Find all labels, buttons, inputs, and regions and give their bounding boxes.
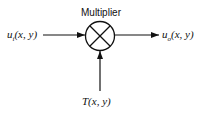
input-signal-label: ui(x, y) — [7, 29, 37, 43]
multiplier-block — [86, 22, 115, 51]
transmittance-label: T(x, y) — [82, 96, 111, 107]
output-signal-label: uo(x, y) — [162, 29, 194, 43]
multiplier-label: Multiplier — [81, 8, 121, 18]
